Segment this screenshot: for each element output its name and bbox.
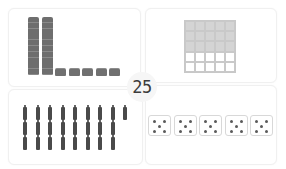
grid-cell-shaded [185,21,195,31]
grid-cell-shaded [205,41,215,51]
stick [111,122,115,135]
grid-cell-shaded [225,21,235,31]
grid-cell [185,52,195,62]
grid-cell-shaded [215,31,225,41]
die-five [225,115,248,136]
stick [86,137,90,150]
shaded-grid [184,20,236,73]
stick [23,107,27,120]
ten-rod [42,17,53,75]
grid-cell [195,62,205,72]
grid-cell-shaded [225,41,235,51]
die-pip [255,120,258,123]
die-pip [230,130,233,133]
grid-cell-shaded [225,31,235,41]
die-pip [230,120,233,123]
die-pip [189,130,192,133]
grid-cell [225,62,235,72]
die-pip [209,125,212,128]
stick [73,137,77,150]
die-pip [153,130,156,133]
grid-cell-shaded [215,41,225,51]
grid-cell [185,62,195,72]
stick [123,107,127,120]
grid-cell-shaded [195,21,205,31]
grid-cell [205,62,215,72]
grid-cell [215,62,225,72]
die-pip [204,120,207,123]
stick [98,107,102,120]
center-number: 25 [132,77,151,97]
grid-cell-shaded [215,21,225,31]
stick [73,107,77,120]
grid-cell [215,52,225,62]
die-pip [158,125,161,128]
stick [36,122,40,135]
die-pip [260,125,263,128]
die-pip [179,120,182,123]
die-pip [265,130,268,133]
die-pip [153,120,156,123]
grid-cell-shaded [185,41,195,51]
stick [98,122,102,135]
stick [23,137,27,150]
stick [23,122,27,135]
die-pip [235,125,238,128]
die-pip [214,120,217,123]
one-cube [82,68,93,76]
stick [36,137,40,150]
one-cube [69,68,80,76]
stick [111,137,115,150]
one-cube [96,68,107,76]
die-pip [265,120,268,123]
die-pip [204,130,207,133]
die-pip [240,130,243,133]
die-pip [189,120,192,123]
stick [86,122,90,135]
stick [61,107,65,120]
stick [61,137,65,150]
grid-cell [205,52,215,62]
stick [98,137,102,150]
one-cube [109,68,120,76]
die-five [199,115,222,136]
die-five [250,115,273,136]
grid-cell-shaded [185,31,195,41]
stick [36,107,40,120]
grid-cell-shaded [205,31,215,41]
die-pip [163,120,166,123]
grid-cell [225,52,235,62]
stick [111,107,115,120]
number-badge: 25 [127,72,157,102]
die-five [174,115,197,136]
die-pip [214,130,217,133]
grid-cell-shaded [195,41,205,51]
one-cube [55,68,66,76]
stick [48,122,52,135]
stick [73,122,77,135]
die-pip [163,130,166,133]
die-five [148,115,171,136]
die-pip [255,130,258,133]
ten-rod [28,17,39,75]
stick [48,107,52,120]
stick [61,122,65,135]
die-pip [184,125,187,128]
die-pip [179,130,182,133]
stick [86,107,90,120]
grid-cell-shaded [205,21,215,31]
die-pip [240,120,243,123]
grid-cell [195,52,205,62]
grid-cell-shaded [195,31,205,41]
stick [48,137,52,150]
